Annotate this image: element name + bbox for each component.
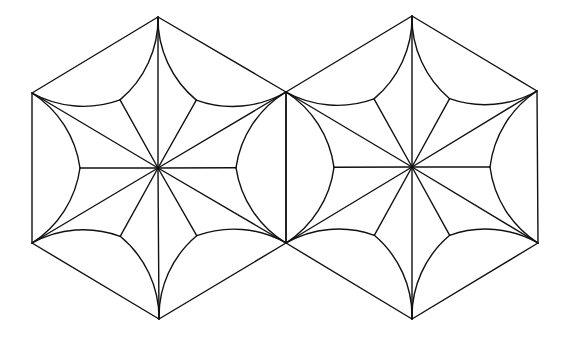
vertex-radial-line xyxy=(158,168,159,319)
petal-arc xyxy=(32,230,120,243)
petal-arc xyxy=(286,229,374,243)
vertex-radial-line xyxy=(286,167,412,243)
petal-arc xyxy=(286,92,334,167)
vertex-radial-line xyxy=(412,167,538,243)
petal-arc xyxy=(197,229,286,243)
petal-arc xyxy=(32,168,80,243)
cusp-radial-line xyxy=(158,168,197,236)
petal-arc xyxy=(450,229,538,243)
petal-arc xyxy=(120,17,158,100)
petal-arc xyxy=(374,16,412,99)
cusp-radial-line xyxy=(374,99,412,167)
vertex-radial-line xyxy=(158,92,286,168)
petal-arc xyxy=(412,16,450,99)
hexagon-flower-diagram xyxy=(0,0,579,339)
petal-arc xyxy=(32,93,120,106)
cusp-radial-line xyxy=(374,167,412,235)
petal-arc xyxy=(374,235,412,319)
petal-arc xyxy=(196,92,286,106)
right-hexagon xyxy=(286,16,538,319)
cusp-radial-line xyxy=(412,167,450,235)
vertex-radial-line xyxy=(32,168,158,243)
petal-arc xyxy=(286,167,334,243)
petal-arc xyxy=(159,236,197,319)
vertex-radial-line xyxy=(32,93,158,168)
diagram-canvas xyxy=(0,0,579,339)
petal-arc xyxy=(236,168,286,243)
petal-arc xyxy=(158,17,196,100)
left-hexagon xyxy=(32,17,286,319)
petal-arc xyxy=(490,91,537,167)
petal-arc xyxy=(412,235,450,319)
petal-arc xyxy=(450,91,537,105)
petal-arc xyxy=(32,93,80,168)
cusp-radial-line xyxy=(120,168,158,236)
cusp-radial-line xyxy=(120,100,158,168)
vertex-radial-line xyxy=(286,92,412,167)
cusp-radial-line xyxy=(158,100,196,168)
petal-arc xyxy=(236,92,286,168)
vertex-radial-line xyxy=(158,168,286,243)
cusp-radial-line xyxy=(412,99,450,167)
petal-arc xyxy=(286,92,374,105)
vertex-radial-line xyxy=(412,91,537,167)
petal-arc xyxy=(490,167,538,243)
